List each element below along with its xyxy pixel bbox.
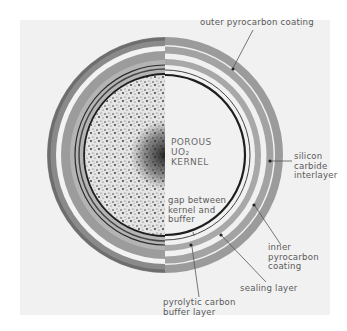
label-gap-kernel-buffer: gap between kernel and buffer	[168, 196, 226, 225]
label-kernel-line3: KERNEL	[171, 157, 212, 167]
label-outer-pyrocarbon-coating: outer pyrocarbon coating	[200, 18, 314, 28]
label-kernel-line2: UO₂	[171, 147, 212, 157]
label-kernel: POROUS UO₂ KERNEL	[171, 137, 212, 167]
label-pyrolytic-carbon-buffer-layer: pyrolytic carbon buffer layer	[163, 298, 236, 317]
label-buffer-line2: buffer layer	[163, 308, 236, 318]
label-silicon-carbide-interlayer: silicon carbide interlayer	[294, 152, 338, 181]
label-sealing-layer: sealing layer	[240, 284, 298, 294]
label-sic-line3: interlayer	[294, 171, 338, 181]
label-ipc-line3: coating	[268, 262, 319, 272]
label-inner-pyrocarbon-coating: inner pyrocarbon coating	[268, 243, 319, 272]
label-gap-line3: buffer	[168, 215, 226, 225]
label-kernel-line1: POROUS	[171, 137, 212, 147]
